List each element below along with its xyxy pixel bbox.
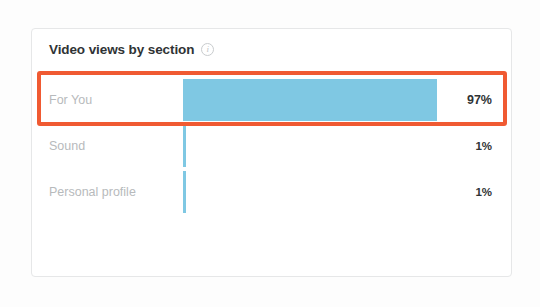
bar-track bbox=[183, 171, 437, 213]
bar-fill-for-you bbox=[183, 79, 437, 121]
bar-track bbox=[183, 125, 437, 167]
chart-row-label: Personal profile bbox=[49, 185, 136, 199]
card-header: Video views by section i bbox=[49, 42, 214, 57]
chart-row-value: 97% bbox=[467, 93, 492, 107]
chart-row-for-you[interactable]: For You 97% bbox=[32, 77, 511, 123]
chart-row-value: 1% bbox=[475, 140, 492, 152]
chart-row-label: Sound bbox=[49, 139, 85, 153]
chart-row-sound[interactable]: Sound 1% bbox=[32, 123, 511, 169]
video-views-card: Video views by section i For You 97% Sou… bbox=[31, 28, 512, 277]
chart-row-value: 1% bbox=[475, 186, 492, 198]
bar-fill-sound bbox=[183, 125, 186, 167]
page-title: Video views by section bbox=[49, 42, 194, 57]
bar-track bbox=[183, 79, 437, 121]
chart-row-personal-profile[interactable]: Personal profile 1% bbox=[32, 169, 511, 215]
bar-fill-personal-profile bbox=[183, 171, 186, 213]
info-circle-icon[interactable]: i bbox=[201, 43, 214, 56]
chart-row-label: For You bbox=[49, 93, 92, 107]
bar-chart: For You 97% Sound 1% Personal profile 1% bbox=[32, 77, 511, 215]
